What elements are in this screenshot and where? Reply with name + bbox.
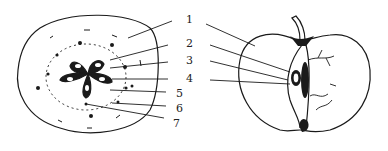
label-5: 5 (176, 88, 183, 99)
label-4: 4 (186, 73, 193, 84)
label-6: 6 (176, 103, 183, 114)
diagram-drawing (0, 0, 388, 151)
label-1: 1 (186, 14, 193, 25)
core-line-left (288, 45, 302, 128)
vascular-branches (308, 50, 336, 110)
stem (292, 16, 305, 40)
label-2: 2 (186, 38, 193, 49)
label-7: 7 (173, 118, 180, 129)
label-3: 3 (186, 55, 193, 66)
apple-section-diagram: 1 2 3 4 5 6 7 (0, 0, 388, 151)
right-leader-lines (206, 24, 290, 84)
vascular-dots (36, 41, 134, 118)
